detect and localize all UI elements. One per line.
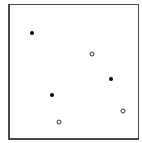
hollow-point-marker	[89, 52, 94, 57]
scatter-plot-frame	[8, 4, 139, 140]
filled-point-marker	[30, 31, 34, 35]
hollow-point-marker	[56, 120, 61, 125]
filled-point-marker	[50, 93, 54, 97]
hollow-point-marker	[120, 109, 125, 114]
filled-point-marker	[109, 77, 113, 81]
